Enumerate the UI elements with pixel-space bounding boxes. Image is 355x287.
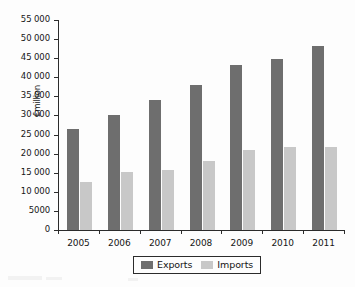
legend-entry-exports[interactable]: Exports (141, 259, 192, 270)
bar-exports-2005[interactable] (67, 129, 79, 230)
legend-swatch-exports (141, 261, 153, 269)
y-tick-label: 5000 (29, 205, 50, 215)
bar-imports-2009[interactable] (243, 150, 255, 230)
bar-imports-2007[interactable] (162, 170, 174, 230)
x-tick-label-2005: 2005 (58, 238, 98, 248)
y-tick-label: 15 000 (21, 167, 50, 177)
bar-exports-2010[interactable] (271, 59, 283, 230)
bar-exports-2006[interactable] (108, 115, 120, 230)
y-tick-label: 10 000 (21, 186, 50, 196)
y-tick-label: 20 000 (21, 148, 50, 158)
legend-swatch-imports (201, 261, 213, 269)
x-tick-mark (181, 230, 182, 234)
legend-label-exports: Exports (157, 259, 192, 270)
x-tick-mark (221, 230, 222, 234)
scan-artifact (46, 277, 62, 280)
y-tick-mark (54, 192, 58, 193)
y-tick-mark (54, 77, 58, 78)
bar-exports-2008[interactable] (190, 85, 202, 230)
x-tick-mark (140, 230, 141, 234)
y-tick-mark (54, 20, 58, 21)
y-tick-label: 30 000 (21, 109, 50, 119)
y-tick-mark (54, 154, 58, 155)
bar-chart-figure: £million 55 00050 00045 00040 00035 0003… (0, 0, 355, 287)
x-tick-label-2009: 2009 (222, 238, 262, 248)
y-tick-label: 45 000 (21, 52, 50, 62)
bar-group-2008 (190, 20, 215, 230)
y-tick-mark (54, 58, 58, 59)
y-tick-mark (54, 211, 58, 212)
x-tick-label-2011: 2011 (304, 238, 344, 248)
x-tick-label-2007: 2007 (140, 238, 180, 248)
bar-exports-2007[interactable] (149, 100, 161, 230)
x-tick-mark (99, 230, 100, 234)
x-tick-label-2006: 2006 (99, 238, 139, 248)
bar-group-2009 (230, 20, 255, 230)
y-tick-mark (54, 96, 58, 97)
bar-group-2007 (149, 20, 174, 230)
x-tick-mark (58, 230, 59, 234)
y-tick-label: 50 000 (21, 33, 50, 43)
x-tick-mark (344, 230, 345, 234)
x-tick-mark (262, 230, 263, 234)
bar-group-2011 (312, 20, 337, 230)
bar-imports-2008[interactable] (203, 161, 215, 230)
bar-imports-2006[interactable] (121, 172, 133, 230)
y-tick-mark (54, 135, 58, 136)
x-tick-mark (303, 230, 304, 234)
bar-exports-2009[interactable] (230, 65, 242, 230)
legend-entry-imports[interactable]: Imports (201, 259, 253, 270)
bar-group-2010 (271, 20, 296, 230)
y-tick-mark (54, 173, 58, 174)
legend-label-imports: Imports (217, 259, 253, 270)
plot-area: 55 00050 00045 00040 00035 00030 00025 0… (58, 20, 344, 230)
y-tick-label: 25 000 (21, 129, 50, 139)
chart-legend: ExportsImports (133, 256, 261, 274)
scan-artifact (8, 276, 42, 280)
y-tick-mark (54, 39, 58, 40)
bar-imports-2005[interactable] (80, 182, 92, 230)
bar-imports-2010[interactable] (284, 147, 296, 230)
y-tick-mark (54, 115, 58, 116)
bar-exports-2011[interactable] (312, 46, 324, 230)
x-axis-line (58, 230, 345, 231)
scan-artifact (128, 278, 138, 281)
x-tick-label-2008: 2008 (181, 238, 221, 248)
y-tick-label: 55 000 (21, 14, 50, 24)
y-tick-label: 35 000 (21, 90, 50, 100)
bar-group-2005 (67, 20, 92, 230)
bar-group-2006 (108, 20, 133, 230)
y-tick-label: 0 (45, 224, 50, 234)
y-tick-label: 40 000 (21, 71, 50, 81)
bar-imports-2011[interactable] (325, 147, 337, 230)
x-tick-label-2010: 2010 (263, 238, 303, 248)
y-axis-line (58, 20, 59, 231)
